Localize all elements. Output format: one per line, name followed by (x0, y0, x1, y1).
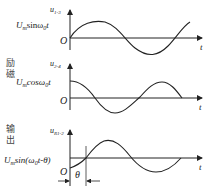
t-label: t (199, 102, 202, 112)
panel-u13: u1-3 Umsinω0t O t (16, 5, 203, 55)
waveform-shifted-sine (70, 140, 181, 172)
formula: Umsinω0t (16, 20, 49, 31)
axis-label: u1-3 (50, 5, 61, 15)
origin-label: O (60, 166, 67, 177)
panel-ur12: uR1-2 Umsin(ω0t-θ) O t θ (4, 126, 202, 186)
panel-u24: u2-4 Umcosω0t O t (16, 59, 202, 113)
formula: Umcosω0t (16, 77, 51, 88)
side-label-excitation-1: 励 (6, 58, 15, 68)
origin-label: O (60, 95, 67, 106)
origin-label: O (60, 35, 67, 46)
theta-label: θ (75, 169, 80, 180)
formula: Umsin(ω0t-θ) (4, 155, 51, 166)
side-label-excitation-2: 磁 (6, 68, 15, 79)
side-label-output-1: 输 (6, 123, 15, 134)
t-label: t (199, 162, 202, 172)
axis-label: uR1-2 (50, 126, 64, 136)
side-label-output-2: 出 (6, 134, 15, 145)
waveform-cosine (70, 81, 182, 113)
axis-label: u2-4 (50, 59, 61, 69)
waveform-diagram: 励 磁 输 出 u1-3 Umsinω0t O t u2-4 Umcosω0t … (0, 0, 212, 195)
t-label: t (200, 42, 203, 52)
